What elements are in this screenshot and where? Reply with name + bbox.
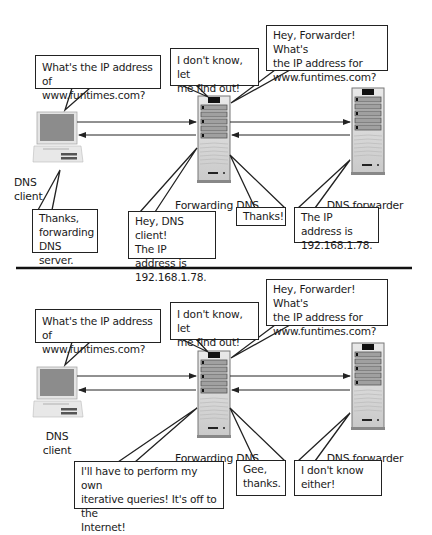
- bubble-forwarding-to-forwarder: Hey, Forwarder! What's the IP address fo…: [266, 279, 388, 326]
- bubble-forwarding-find-out: I don't know, let me find out!: [170, 302, 259, 340]
- bubble-client-reply: Thanks, forwarding DNS server.: [32, 209, 98, 253]
- bubble-forwarding-find-out: I don't know, let me find out!: [170, 48, 259, 86]
- bubble-forwarding-answer: Hey, DNS client! The IP address is 192.1…: [128, 211, 216, 259]
- bubble-forwarding-iterative: I'll have to perform my own iterative qu…: [74, 461, 224, 509]
- bubble-forwarder-answer: The IP address is 192.168.1.78.: [294, 207, 379, 243]
- label-dns-client: DNS client: [14, 176, 54, 204]
- bubble-forwarder-answer: I don't know either!: [294, 460, 382, 496]
- bubble-forwarding-to-forwarder: Hey, Forwarder! What's the IP address fo…: [266, 25, 388, 71]
- bubble-client-query: What's the IP address of www.funtimes.co…: [35, 309, 161, 343]
- bubble-client-query: What's the IP address of www.funtimes.co…: [35, 55, 161, 89]
- label-dns-client: DNS client: [40, 430, 74, 458]
- bubble-forwarding-thanks: Thanks!: [236, 207, 286, 226]
- bubble-forwarding-thanks: Gee, thanks.: [236, 460, 286, 496]
